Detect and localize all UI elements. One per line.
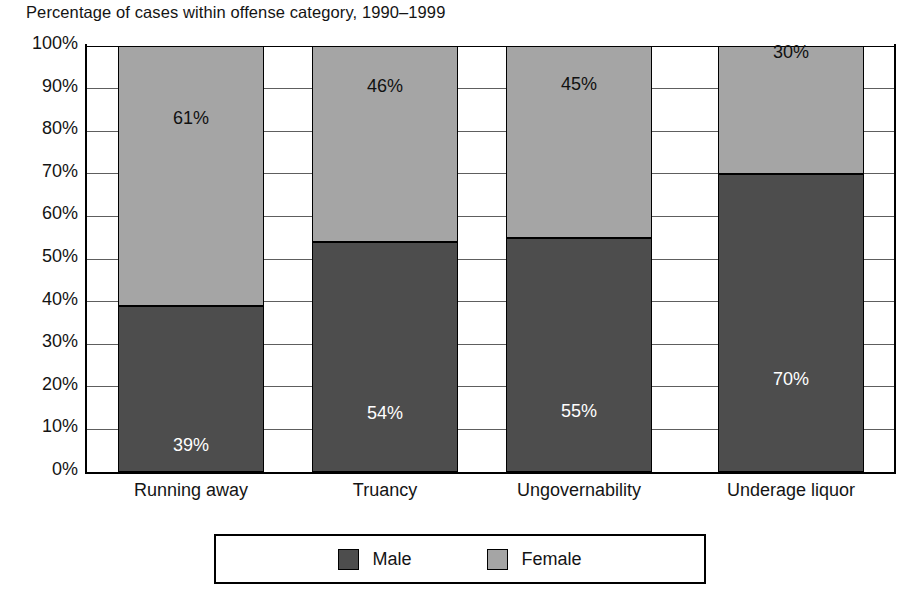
legend-label-female: Female xyxy=(521,549,581,570)
bar-group[interactable]: 45%55% xyxy=(506,46,652,472)
chart-legend: Male Female xyxy=(214,534,706,584)
chart-title: Percentage of cases within offense categ… xyxy=(26,3,445,22)
y-axis-line xyxy=(85,44,87,474)
x-axis-line xyxy=(85,472,896,474)
bar-value-label: 39% xyxy=(173,436,209,454)
x-axis-tick-label: Running away xyxy=(78,480,304,501)
bar-value-label: 61% xyxy=(173,109,209,127)
legend-entry-male[interactable]: Male xyxy=(338,549,411,570)
bar-value-label: 55% xyxy=(561,402,597,420)
x-axis-tick-label: Truancy xyxy=(272,480,498,501)
bar-value-label: 30% xyxy=(773,43,809,61)
bar-segment-female[interactable]: 46% xyxy=(312,46,458,242)
legend-entry-female[interactable]: Female xyxy=(487,549,581,570)
bar-group[interactable]: 46%54% xyxy=(312,46,458,472)
bar-segment-male[interactable]: 54% xyxy=(312,242,458,472)
bar-segment-male[interactable]: 39% xyxy=(118,306,264,472)
plot-right-border xyxy=(894,44,896,474)
bar-value-label: 54% xyxy=(367,404,403,422)
bar-segment-male[interactable]: 70% xyxy=(718,174,864,472)
bar-value-label: 46% xyxy=(367,77,403,95)
chart-figure: Percentage of cases within offense categ… xyxy=(0,0,916,605)
x-axis-tick-label: Ungovernability xyxy=(466,480,692,501)
bar-value-label: 45% xyxy=(561,75,597,93)
bar-segment-female[interactable]: 45% xyxy=(506,46,652,238)
bar-segment-female[interactable]: 61% xyxy=(118,46,264,306)
x-axis-tick-label: Underage liquor xyxy=(678,480,904,501)
legend-swatch-male-icon xyxy=(338,549,359,570)
bar-segment-male[interactable]: 55% xyxy=(506,238,652,472)
bar-group[interactable]: 61%39% xyxy=(118,46,264,472)
bar-group[interactable]: 30%70% xyxy=(718,46,864,472)
bar-segment-female[interactable]: 30% xyxy=(718,46,864,174)
legend-label-male: Male xyxy=(372,549,411,570)
bar-value-label: 70% xyxy=(773,370,809,388)
legend-swatch-female-icon xyxy=(487,549,508,570)
